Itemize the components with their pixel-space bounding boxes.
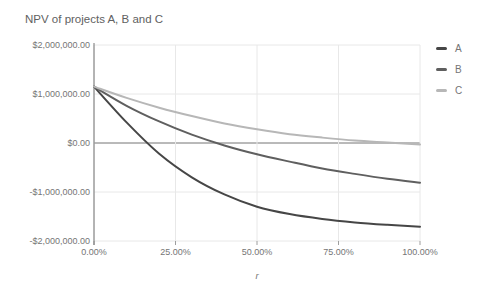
legend-item: A: [436, 38, 462, 59]
legend-dash-icon: [436, 89, 447, 92]
x-tick-label: 100.00%: [402, 247, 438, 257]
legend-item: C: [436, 80, 462, 101]
legend: A B C: [436, 38, 462, 101]
legend-item-label: C: [455, 86, 462, 96]
x-tick-label: 50.00%: [242, 247, 273, 257]
legend-item: B: [436, 59, 462, 80]
legend-item-label: A: [455, 44, 462, 54]
line-chart-plot: [94, 45, 420, 241]
x-tick-label: 25.00%: [160, 247, 191, 257]
y-tick-label: $2,000,000.00: [32, 40, 90, 50]
chart-container: NPV of projects A, B and C $2,000,000.00…: [0, 0, 481, 290]
x-axis-title: r: [255, 270, 258, 281]
x-tick-label: 75.00%: [323, 247, 354, 257]
legend-dash-icon: [436, 47, 447, 50]
legend-item-label: B: [455, 65, 462, 75]
y-tick-label: $1,000,000.00: [32, 89, 90, 99]
legend-dash-icon: [436, 68, 447, 71]
y-axis-labels: $2,000,000.00 $1,000,000.00 $0.00 -$1,00…: [0, 0, 90, 290]
y-tick-label: -$1,000,000.00: [29, 187, 90, 197]
y-tick-label: -$2,000,000.00: [29, 236, 90, 246]
y-tick-label: $0.00: [67, 138, 90, 148]
x-tick-label: 0.00%: [81, 247, 107, 257]
